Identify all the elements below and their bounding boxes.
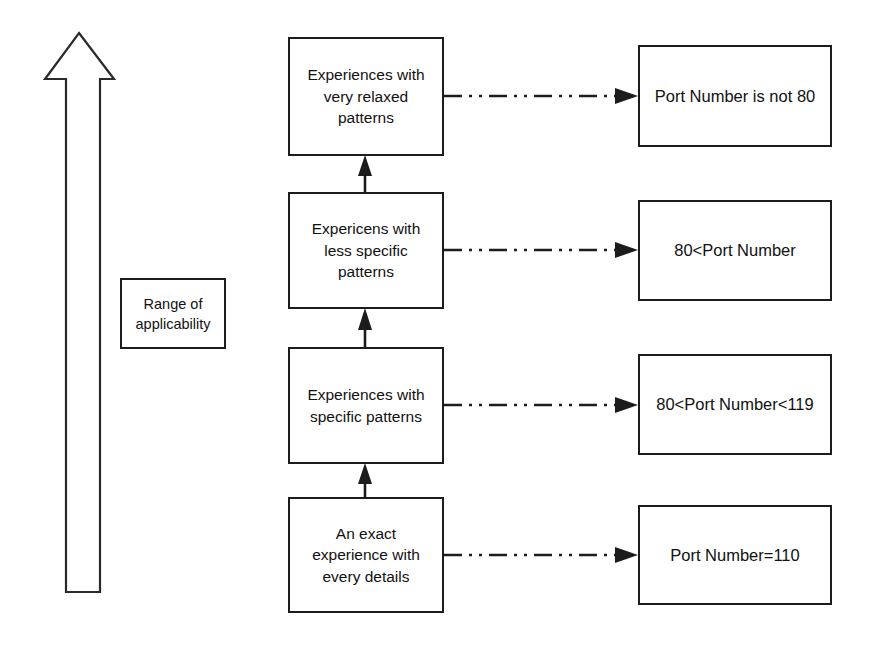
connector-exact-arrowhead (615, 547, 638, 563)
level-label-specific: Experiences with specific patterns (301, 384, 430, 427)
level-box-specific: Experiences with specific patterns (288, 347, 444, 464)
connector-specific-arrowhead (615, 397, 638, 413)
diagram-canvas: Range of applicability Experiences with … (0, 0, 872, 648)
arrow-less-specific-to-very-relaxed-head (358, 155, 372, 176)
arrow-exact-to-specific-head (358, 463, 372, 484)
condition-box-exact: Port Number=110 (638, 505, 832, 605)
range-of-applicability-label: Range of applicability (122, 294, 224, 334)
level-box-less-specific: Expericens with less specific patterns (288, 192, 444, 309)
condition-label-less-specific: 80<Port Number (668, 239, 802, 262)
condition-label-specific: 80<Port Number<119 (650, 393, 819, 416)
level-box-very-relaxed: Experiences with very relaxed patterns (288, 37, 444, 156)
condition-label-very-relaxed: Port Number is not 80 (649, 85, 822, 108)
condition-box-less-specific: 80<Port Number (638, 200, 832, 301)
level-label-very-relaxed: Experiences with very relaxed patterns (301, 64, 430, 128)
connector-very-relaxed-arrowhead (615, 88, 638, 104)
condition-box-very-relaxed: Port Number is not 80 (638, 45, 832, 147)
level-label-exact: An exact experience with every details (306, 523, 426, 587)
level-label-less-specific: Expericens with less specific patterns (306, 218, 427, 282)
range-of-applicability-box: Range of applicability (120, 278, 226, 349)
condition-label-exact: Port Number=110 (664, 544, 805, 567)
level-box-exact: An exact experience with every details (288, 497, 444, 613)
arrow-specific-to-less-specific-head (358, 308, 372, 330)
condition-box-specific: 80<Port Number<119 (638, 354, 832, 455)
range-of-applicability-up-arrow-icon (45, 33, 114, 592)
connector-less-specific-arrowhead (615, 242, 638, 258)
